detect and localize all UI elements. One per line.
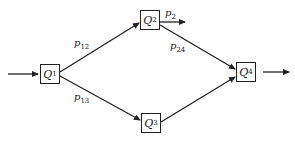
label-subscript: 13: [80, 97, 89, 105]
node-subscript: 1: [52, 70, 56, 78]
edge-label-p13: p13: [74, 92, 89, 105]
edge-label-p2: p2: [165, 8, 176, 21]
label-subscript: 2: [171, 13, 175, 21]
node-subscript: 4: [248, 68, 252, 76]
edge-label-p24: p24: [170, 41, 185, 54]
node-subscript: 3: [153, 119, 157, 127]
node-subscript: 2: [152, 16, 156, 24]
queue-node-q2: Q2: [140, 10, 160, 30]
node-label: Q: [239, 66, 248, 79]
label-subscript: 24: [176, 46, 185, 54]
queue-node-q4: Q4: [236, 62, 256, 82]
queue-node-q1: Q1: [40, 64, 60, 84]
label-subscript: 12: [80, 43, 89, 51]
edge-q1-q2: [60, 23, 139, 72]
node-label: Q: [144, 117, 153, 130]
edge-q3-q4: [161, 77, 235, 122]
node-label: Q: [43, 68, 52, 81]
queueing-network-diagram: Q1 Q2 Q3 Q4 p12 p13 p2 p24: [0, 0, 295, 147]
queue-node-q3: Q3: [141, 113, 161, 133]
edge-label-p12: p12: [74, 38, 89, 51]
node-label: Q: [143, 14, 152, 27]
edge-q1-q3: [60, 76, 140, 120]
